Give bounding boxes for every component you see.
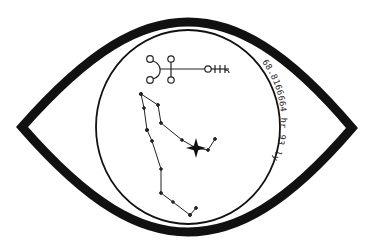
star (151, 140, 154, 143)
star (157, 104, 160, 107)
eye-constellation-illustration: 68.8166664 hr 93 ly (0, 0, 377, 251)
star (214, 138, 217, 141)
star (139, 92, 142, 95)
eye-outline (22, 22, 352, 232)
bright-star-icon (186, 138, 206, 158)
star (160, 122, 163, 125)
star (160, 168, 163, 171)
sigil-icon (147, 56, 229, 84)
star (145, 128, 148, 131)
star (143, 107, 146, 110)
constellation (139, 92, 216, 216)
iris-circle (96, 30, 280, 224)
star (189, 214, 192, 217)
star (207, 149, 210, 152)
star (172, 201, 175, 204)
star (181, 139, 184, 142)
star (160, 192, 163, 195)
star (195, 207, 198, 210)
